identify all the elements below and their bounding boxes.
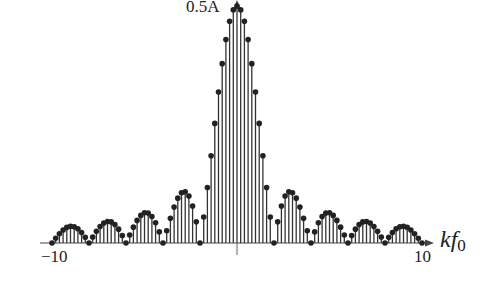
stem-marker [120,233,126,239]
stem-marker [53,235,59,241]
x-axis-label-main: kf [440,226,457,252]
stem-marker [208,153,214,159]
peak-value-label: 0.5A [186,0,220,17]
stem-marker [301,216,307,222]
stem-marker [379,234,385,240]
stem-marker [330,213,336,219]
stem-marker [223,37,229,43]
stem-marker [412,231,418,237]
stem-marker [212,121,218,127]
stem-marker [164,228,170,234]
stem-marker [308,240,314,246]
stem-marker [112,222,118,228]
stem-marker [371,224,377,230]
stem-marker [253,89,259,95]
stem-marker [49,240,55,246]
stem-marker [279,203,285,209]
stem-lines [52,6,422,243]
stem-marker [90,234,96,240]
stem-marker [382,240,388,246]
stem-marker [116,226,122,232]
stem-marker [260,153,266,159]
stem-marker [264,185,270,191]
stem-marker [123,240,129,246]
stem-marker [194,219,200,225]
stem-marker [227,18,233,24]
x-axis-label: kf0 [440,226,466,256]
stem-marker [275,219,281,225]
stem-marker [127,232,133,238]
stem-marker [316,220,322,226]
stem-marker [79,230,85,236]
stem-marker [305,228,311,234]
stem-marker [175,195,181,201]
stem-marker [201,214,207,220]
stem-marker [353,226,359,232]
stem-marker [290,190,296,196]
stem-marker [386,235,392,241]
x-axis-label-sub: 0 [457,236,466,255]
stem-marker [157,229,163,235]
stem-marker [134,218,140,224]
stem-marker [249,61,255,67]
stem-marker [375,229,381,235]
stem-marker [197,240,203,246]
x-tick-max: 10 [414,247,431,267]
stem-marker [160,240,166,246]
stem-marker [149,214,155,220]
stem-marker [271,240,277,246]
stem-marker [419,240,425,246]
stem-marker [312,229,318,235]
stem-marker [416,235,422,241]
stem-marker [168,216,174,222]
stem-marker [205,185,211,191]
stem-marker [182,189,188,195]
stem-marker [334,218,340,224]
stem-marker [282,193,288,199]
stem-marker [94,229,100,235]
stem-marker [219,61,225,67]
stem-marker [342,232,348,238]
stem-marker [83,235,89,241]
stem-marker [131,224,137,230]
stem-marker [297,204,303,210]
stem-marker [349,233,355,239]
x-axis-arrow-icon [425,240,434,247]
spectrum-stem-plot [0,0,483,290]
stem-marker [216,89,222,95]
stem-marker [345,240,351,246]
stem-marker [242,18,248,24]
stem-marker [171,204,177,210]
stem-marker [238,7,244,13]
x-tick-min: −10 [41,247,68,267]
stem-marker [190,203,196,209]
stem-marker [268,214,274,220]
stem-marker [293,195,299,201]
stem-marker [256,121,262,127]
stem-marker [86,240,92,246]
stem-marker [338,224,344,230]
stem-marker [153,220,159,226]
stem-marker [186,193,192,199]
stem-marker [245,37,251,43]
